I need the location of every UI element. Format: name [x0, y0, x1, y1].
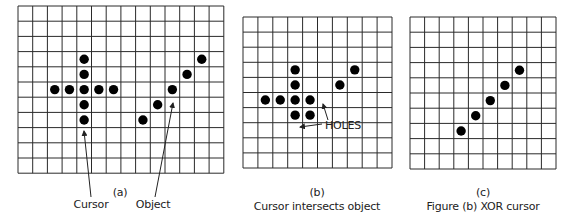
pixel-dot [197, 55, 206, 64]
pixel-dot [335, 80, 344, 89]
pixel-dot [79, 70, 88, 79]
panel-c-caption: Figure (b) XOR cursor [426, 201, 539, 212]
pixel-dot [486, 96, 495, 105]
pixel-dot [290, 110, 299, 119]
pixel-dot [168, 85, 177, 94]
pixel-dot [94, 85, 103, 94]
panel-b-caption: Cursor intersects object [254, 201, 380, 212]
pixel-dot [290, 80, 299, 89]
pixel-dot [515, 66, 524, 75]
panel-b-tag: (b) [310, 187, 325, 198]
pixel-dot [456, 126, 465, 135]
pixel-dot [305, 95, 314, 104]
pixel-dot [50, 85, 59, 94]
holes-arrow-left [300, 124, 322, 127]
cursor-arrow [84, 131, 91, 197]
object-label: Object [136, 199, 171, 210]
pixel-dot [290, 95, 299, 104]
pixel-dot [109, 85, 118, 94]
pixel-dot [79, 55, 88, 64]
object-arrow [155, 103, 173, 197]
panel-c-tag: (c) [476, 187, 490, 198]
pixel-dot [261, 95, 270, 104]
pixel-dot [276, 95, 285, 104]
pixel-dot [79, 115, 88, 124]
pixel-dot [500, 81, 509, 90]
pixel-dot [182, 70, 191, 79]
holes-label: HOLES [325, 120, 361, 131]
cursor-label: Cursor [74, 199, 109, 210]
holes-arrow-up [323, 104, 328, 120]
grid-panel-b [243, 17, 392, 168]
pixel-dot [79, 100, 88, 109]
pixel-dot [65, 85, 74, 94]
panel-a-tag: (a) [113, 187, 128, 198]
pixel-dot [290, 65, 299, 74]
grid-panel-a [18, 6, 224, 173]
pixel-dot [305, 110, 314, 119]
pixel-dot [153, 100, 162, 109]
pixel-dot [350, 65, 359, 74]
grid-panel-c [410, 17, 556, 169]
pixel-dot [471, 111, 480, 120]
pixel-dot [138, 115, 147, 124]
pixel-dot [79, 85, 88, 94]
